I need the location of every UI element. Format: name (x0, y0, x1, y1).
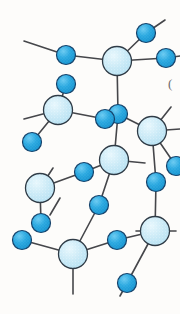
silicon-atom-5 (26, 174, 55, 203)
oxygen-atom-13 (13, 231, 32, 250)
oxygen-atom-11-texture (90, 196, 107, 213)
oxygen-atom-10 (167, 157, 181, 176)
oxygen-atom-1-texture (57, 46, 74, 63)
silicon-atom-3 (138, 117, 167, 146)
oxygen-atom-2 (137, 24, 156, 43)
oxygen-atom-15-texture (118, 274, 135, 291)
oxygen-atom-11 (90, 196, 109, 215)
figure-background (0, 0, 180, 314)
oxygen-atom-7-texture (23, 133, 40, 150)
silicon-atom-1 (103, 47, 132, 76)
silicon-atom-7 (59, 240, 88, 269)
oxygen-atom-12 (32, 214, 51, 233)
silicon-atom-6 (141, 217, 170, 246)
oxygen-atom-6 (96, 110, 115, 129)
scan-artifact-parenthesis: ( (168, 76, 172, 91)
oxygen-atom-14-texture (108, 231, 125, 248)
silicon-atom-3-texture (138, 117, 165, 144)
silicon-atom-2 (44, 96, 73, 125)
oxygen-atom-3 (157, 49, 176, 68)
silicon-atom-5-texture (26, 174, 53, 201)
oxygen-atom-9-texture (147, 173, 164, 190)
molecular-structure-figure: Amorphous silica network ball-and-stick … (0, 0, 180, 314)
oxygen-atom-9 (147, 173, 166, 192)
silicon-atom-4-texture (100, 146, 127, 173)
silicon-atom-6-texture (141, 217, 168, 244)
silicon-atom-4 (100, 146, 129, 175)
oxygen-atom-12-texture (32, 214, 49, 231)
oxygen-atom-4 (57, 75, 76, 94)
oxygen-atom-3-texture (157, 49, 174, 66)
silicon-atom-2-texture (44, 96, 71, 123)
oxygen-atom-1 (57, 46, 76, 65)
oxygen-atom-14 (108, 231, 127, 250)
oxygen-atom-4-texture (57, 75, 74, 92)
silicon-atom-1-texture (103, 47, 130, 74)
artifact-layer: ( (168, 76, 172, 91)
oxygen-atom-8-texture (75, 163, 92, 180)
oxygen-atom-13-texture (13, 231, 30, 248)
oxygen-atom-15 (118, 274, 137, 293)
oxygen-atom-8 (75, 163, 94, 182)
silicon-atom-7-texture (59, 240, 86, 267)
structure-canvas: ( (0, 0, 180, 314)
oxygen-atom-2-texture (137, 24, 154, 41)
oxygen-atom-6-texture (96, 110, 113, 127)
oxygen-atom-7 (23, 133, 42, 152)
